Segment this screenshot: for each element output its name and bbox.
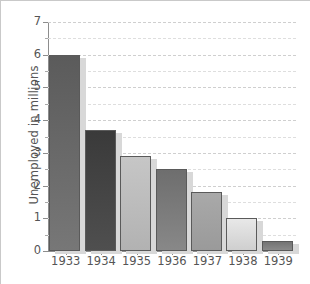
bar-1938[interactable] — [226, 218, 257, 251]
bar-1934[interactable] — [85, 130, 116, 251]
y-tick-major — [43, 55, 48, 56]
y-tick-minor — [45, 169, 48, 170]
gridline-major — [48, 22, 296, 23]
y-tick-major — [43, 218, 48, 219]
bar-1936[interactable] — [156, 169, 187, 251]
bar-1939[interactable] — [262, 241, 293, 251]
bar-1933[interactable] — [49, 55, 80, 251]
x-axis-tick-label: 1938 — [223, 254, 263, 268]
x-axis-tick-label: 1939 — [258, 254, 298, 268]
y-axis-tick-label: 3 — [15, 147, 41, 159]
y-axis-tick-label: 2 — [15, 180, 41, 192]
bar-group — [120, 156, 151, 251]
y-axis-tick-label: 5 — [15, 81, 41, 93]
y-axis-tick-label: 7 — [15, 16, 41, 28]
y-axis-title: Unemployed in millions — [27, 45, 41, 225]
x-axis-tick-label: 1937 — [187, 254, 227, 268]
x-axis-tick-label: 1933 — [46, 254, 86, 268]
y-tick-minor — [45, 137, 48, 138]
x-axis-tick-label: 1934 — [81, 254, 121, 268]
chart-figure: Unemployed in millions 01234567193319341… — [0, 0, 310, 284]
gridline-minor — [48, 38, 296, 39]
y-tick-major — [43, 186, 48, 187]
y-axis-tick-label: 6 — [15, 49, 41, 61]
y-tick-minor — [45, 104, 48, 105]
y-tick-minor — [45, 202, 48, 203]
bar-group — [156, 169, 187, 251]
x-axis-tick-label: 1936 — [152, 254, 192, 268]
gridline-major — [48, 55, 296, 56]
y-tick-minor — [45, 38, 48, 39]
bar-group — [191, 192, 222, 251]
bar-1935[interactable] — [120, 156, 151, 251]
y-tick-major — [43, 87, 48, 88]
figure-caption — [5, 277, 305, 284]
y-tick-minor — [45, 235, 48, 236]
bar-group — [85, 130, 116, 251]
plot-area — [48, 22, 296, 251]
bar-group — [226, 218, 257, 251]
y-tick-minor — [45, 71, 48, 72]
y-axis-tick-label: 1 — [15, 212, 41, 224]
y-tick-major — [43, 251, 48, 252]
bar-group — [262, 241, 293, 251]
bar-group — [49, 55, 80, 251]
y-axis-tick-label: 0 — [15, 245, 41, 257]
y-tick-major — [43, 120, 48, 121]
y-tick-major — [43, 22, 48, 23]
bar-1937[interactable] — [191, 192, 222, 251]
y-tick-major — [43, 153, 48, 154]
x-axis-tick-label: 1935 — [117, 254, 157, 268]
y-axis-tick-label: 4 — [15, 114, 41, 126]
